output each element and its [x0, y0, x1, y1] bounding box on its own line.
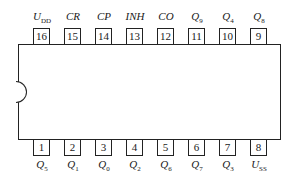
pin-16-label: UDD: [27, 10, 57, 25]
pin-15: 15: [64, 28, 81, 44]
pin-7-label: Q3: [213, 158, 243, 173]
pin-subscript: 7: [199, 165, 203, 173]
pin-2: 2: [64, 140, 81, 156]
pin-11: 11: [188, 28, 205, 44]
pin-subscript: 3: [230, 165, 234, 173]
pin-subscript: 0: [106, 165, 110, 173]
pin-6-label: Q7: [182, 158, 212, 173]
pin-name: INH: [126, 10, 145, 22]
pin-6: 6: [188, 140, 205, 156]
pin-name: U: [33, 10, 41, 22]
pin-14: 14: [95, 28, 112, 44]
chip-body: [18, 44, 281, 140]
pin-3: 3: [95, 140, 112, 156]
pin-5: 5: [157, 140, 174, 156]
pin-4-label: Q2: [120, 158, 150, 173]
pin-12: 12: [157, 28, 174, 44]
pin-subscript: 1: [75, 165, 79, 173]
pin-3-label: Q0: [89, 158, 119, 173]
pin-subscript: 8: [261, 17, 265, 25]
pin-name: U: [251, 158, 259, 170]
pin-subscript: 2: [137, 165, 141, 173]
pin-10: 10: [219, 28, 236, 44]
pin-15-label: CR: [58, 10, 88, 25]
pin-subscript: 4: [230, 17, 234, 25]
pin-subscript: 9: [199, 17, 203, 25]
pin-14-label: CP: [89, 10, 119, 25]
pin-name: CO: [158, 10, 173, 22]
pin-subscript: DD: [41, 17, 51, 25]
pin-subscript: SS: [259, 165, 267, 173]
pin-subscript: 5: [44, 165, 48, 173]
pin-11-label: Q9: [182, 10, 212, 25]
pin-13-label: INH: [120, 10, 150, 25]
pin-5-label: Q6: [151, 158, 181, 173]
pin-subscript: 6: [168, 165, 172, 173]
pin-7: 7: [219, 140, 236, 156]
pin-name: CP: [97, 10, 111, 22]
pin-4: 4: [126, 140, 143, 156]
pin-9-label: Q8: [244, 10, 274, 25]
pin-13: 13: [126, 28, 143, 44]
pin-1: 1: [33, 140, 50, 156]
pin-8-label: USS: [244, 158, 274, 173]
pin-16: 16: [33, 28, 50, 44]
pin-9: 9: [250, 28, 267, 44]
pin-1-label: Q5: [27, 158, 57, 173]
pin-10-label: Q4: [213, 10, 243, 25]
pin-12-label: CO: [151, 10, 181, 25]
pin-8: 8: [250, 140, 267, 156]
pin-name: CR: [66, 10, 80, 22]
pin-2-label: Q1: [58, 158, 88, 173]
